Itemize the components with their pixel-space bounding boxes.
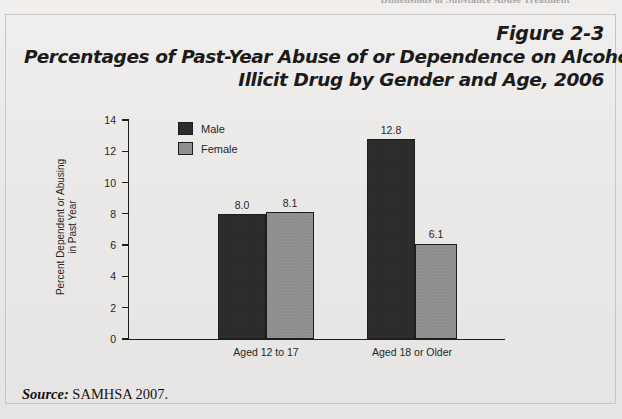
y-tick-label-6: 6 xyxy=(76,239,116,251)
y-tick-mark-0 xyxy=(122,338,128,339)
x-axis-line xyxy=(128,339,505,340)
y-axis-title-line-1: Percent Dependent or Abusing xyxy=(55,152,67,302)
bar-value-aged-18-or-older-male: 12.8 xyxy=(367,124,415,136)
y-tick-label-14: 14 xyxy=(76,114,116,126)
legend-label-male: Male xyxy=(201,123,225,135)
source-note: Source: SAMHSA 2007. xyxy=(22,386,168,403)
figure-title-line-1: Percentages of Past-Year Abuse of or Dep… xyxy=(24,45,604,68)
legend-item-male: Male xyxy=(178,120,238,137)
y-axis-line xyxy=(128,119,129,340)
figure-page: Dimensions of Substance Abuse Treatment … xyxy=(0,0,622,419)
y-axis-title: Percent Dependent or Abusing in Past Yea… xyxy=(55,152,81,302)
chart-plot-area: 0 2 4 6 8 10 12 14 Percent Dependent or … xyxy=(60,112,560,347)
bar-aged-18-or-older-male xyxy=(367,139,415,339)
bar-value-aged-12-to-17-female: 8.1 xyxy=(266,197,314,209)
y-tick-mark-2 xyxy=(122,307,128,308)
y-tick-mark-8 xyxy=(122,213,128,214)
group-label-aged-18-or-older: Aged 18 or Older xyxy=(352,346,472,358)
y-tick-label-2: 2 xyxy=(76,302,116,314)
figure-title-block: Figure 2-3 Percentages of Past-Year Abus… xyxy=(24,22,604,91)
y-tick-label-8: 8 xyxy=(76,208,116,220)
group-label-aged-12-to-17: Aged 12 to 17 xyxy=(206,346,326,358)
bar-value-aged-18-or-older-female: 6.1 xyxy=(415,228,457,240)
y-tick-label-12: 12 xyxy=(76,145,116,157)
bar-aged-12-to-17-male xyxy=(218,214,266,339)
y-tick-mark-12 xyxy=(122,151,128,152)
bar-aged-12-to-17-female xyxy=(266,212,314,339)
chart-legend: Male Female xyxy=(178,120,238,160)
bar-aged-18-or-older-female xyxy=(415,244,457,339)
y-tick-mark-6 xyxy=(122,244,128,245)
legend-swatch-female-icon xyxy=(178,142,193,155)
source-value: SAMHSA 2007. xyxy=(72,386,168,402)
y-tick-label-10: 10 xyxy=(76,177,116,189)
running-header-text: Dimensions of Substance Abuse Treatment xyxy=(381,0,571,5)
y-tick-mark-4 xyxy=(122,276,128,277)
y-tick-mark-14 xyxy=(122,119,128,120)
y-axis-title-line-2: in Past Year xyxy=(67,152,79,302)
figure-number: Figure 2-3 xyxy=(24,22,604,45)
legend-label-female: Female xyxy=(201,143,238,155)
y-tick-label-4: 4 xyxy=(76,270,116,282)
y-tick-label-0: 0 xyxy=(76,333,116,345)
y-tick-mark-10 xyxy=(122,182,128,183)
figure-title-line-2: Illicit Drug by Gender and Age, 2006 xyxy=(24,68,604,91)
bar-value-aged-12-to-17-male: 8.0 xyxy=(218,199,266,211)
source-label: Source: xyxy=(22,386,69,402)
legend-item-female: Female xyxy=(178,140,238,157)
legend-swatch-male-icon xyxy=(178,122,193,135)
running-header: Dimensions of Substance Abuse Treatment xyxy=(0,0,622,11)
